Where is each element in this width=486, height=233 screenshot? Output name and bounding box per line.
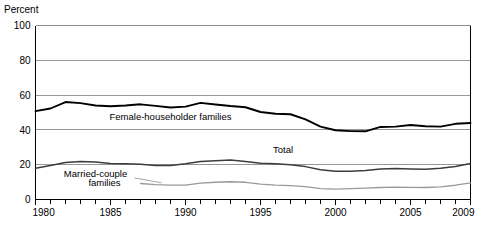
y-tick-label: 80 bbox=[19, 55, 31, 66]
series-line bbox=[36, 102, 471, 131]
y-tick-label: 40 bbox=[19, 125, 31, 136]
y-axis-title: Percent bbox=[4, 4, 39, 15]
series-line bbox=[141, 182, 471, 189]
x-tick-label: 1980 bbox=[33, 207, 56, 218]
series-annotation: Female-householder families bbox=[110, 111, 232, 122]
leader-line bbox=[135, 178, 162, 183]
x-tick-label: 1985 bbox=[99, 207, 122, 218]
y-tick-label: 0 bbox=[25, 194, 31, 205]
series-annotation: families bbox=[88, 177, 120, 188]
x-tick-label: 2005 bbox=[399, 207, 422, 218]
x-tick-label: 1990 bbox=[174, 207, 197, 218]
y-tick-label: 60 bbox=[19, 90, 31, 101]
x-tick-label: 1995 bbox=[249, 207, 272, 218]
x-tick-label: 2009 bbox=[452, 207, 475, 218]
x-tick-label: 2000 bbox=[324, 207, 347, 218]
chart-container: Percent020406080100198019851990199520002… bbox=[0, 0, 486, 233]
line-chart: Percent020406080100198019851990199520002… bbox=[0, 0, 486, 233]
series-annotation: Total bbox=[273, 144, 293, 155]
y-tick-label: 100 bbox=[14, 20, 31, 31]
y-tick-label: 20 bbox=[19, 159, 31, 170]
